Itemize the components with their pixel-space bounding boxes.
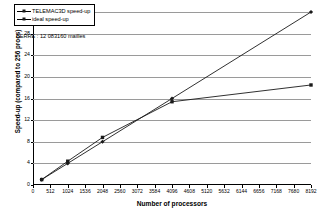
y-tick-label: 0 <box>27 182 30 187</box>
x-tick-label: 8192 <box>305 189 316 194</box>
x-tick-label: 0 <box>32 189 35 194</box>
x-tick-label: 3584 <box>149 189 160 194</box>
x-tick-label: 2048 <box>97 189 108 194</box>
x-tick-label: 4608 <box>184 189 195 194</box>
legend-label-telemac3d: TELEMAC3D speed-up <box>32 8 90 14</box>
y-tick-label: 16 <box>24 96 30 101</box>
data-point-marker <box>170 96 174 100</box>
x-tick-label: 5120 <box>201 189 212 194</box>
y-tick-label: 8 <box>27 139 30 144</box>
x-tick-label: 5632 <box>219 189 230 194</box>
x-tick-label: 1536 <box>80 189 91 194</box>
x-tick-label: 1024 <box>62 189 73 194</box>
annotation-line-2: .. <box>16 40 85 44</box>
x-tick-label: 6656 <box>253 189 264 194</box>
legend-item-ideal: ideal speed-up <box>17 15 90 23</box>
legend-label-ideal: ideal speed-up <box>32 16 69 22</box>
y-tick-label: 20 <box>24 74 30 79</box>
x-tick-label: 4096 <box>166 189 177 194</box>
y-axis-title: Speed-up (compared to 256 procs) <box>14 7 21 157</box>
x-tick-label: 7168 <box>271 189 282 194</box>
series-line-telemac3d <box>42 85 311 180</box>
x-tick-label: 7680 <box>288 189 299 194</box>
speedup-chart: 048121620242832 051210241536204825603072… <box>0 0 317 220</box>
annotation-line-1: BERRE : 12 083160 mailles <box>16 33 85 40</box>
x-axis-title: Number of processors <box>33 200 311 208</box>
y-tick-label: 24 <box>24 53 30 58</box>
x-tick-label: 6144 <box>236 189 247 194</box>
y-tick-label: 12 <box>24 118 30 123</box>
x-tick-label: 3072 <box>132 189 143 194</box>
x-tick-label: 2560 <box>114 189 125 194</box>
data-point-marker <box>309 83 312 86</box>
legend-marker-diamond-icon <box>17 15 31 23</box>
y-tick-label: 4 <box>27 161 30 166</box>
chart-legend: TELEMAC3D speed-up ideal speed-up <box>14 4 95 26</box>
data-point-marker <box>309 10 313 14</box>
data-point-marker <box>100 140 104 144</box>
data-point-marker <box>101 136 104 139</box>
legend-item-telemac3d: TELEMAC3D speed-up <box>17 7 90 15</box>
legend-marker-square-icon <box>17 7 31 15</box>
x-tick-label: 512 <box>46 189 54 194</box>
chart-annotation: BERRE : 12 083160 mailles .. <box>16 33 85 44</box>
